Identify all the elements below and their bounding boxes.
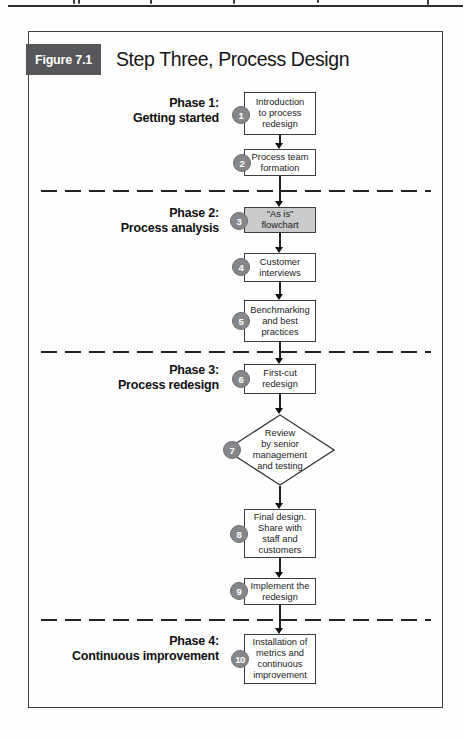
step-7-line: by senior	[225, 439, 335, 450]
step-4-line: interviews	[259, 268, 300, 279]
step-10-line: improvement	[253, 670, 307, 681]
step-8-line: Share with	[258, 523, 302, 534]
step-9-number-badge: 9	[230, 582, 248, 600]
step-2-box: Process team formation	[244, 149, 316, 176]
step-7-line: Review	[225, 428, 335, 439]
step-3-line: flowchart	[261, 220, 298, 231]
phase-divider-3-dashed-line	[41, 619, 431, 621]
phase-3-name: Phase 3:	[118, 363, 219, 378]
flow-arrow-7-8	[279, 486, 281, 503]
step-1-line: to process	[259, 108, 302, 119]
step-7-line: management	[225, 450, 335, 461]
text-fragment	[150, 0, 152, 4]
step-4-line: Customer	[260, 257, 300, 268]
phase-divider-2-dashed-line	[41, 351, 431, 353]
phase-4-label: Phase 4: Continuous improvement	[72, 634, 219, 664]
step-3-box: "As is" flowchart	[244, 207, 316, 233]
step-6-box: First-cut redesign	[244, 364, 316, 394]
text-fragment	[78, 0, 80, 4]
flow-arrow-5-6	[279, 342, 281, 358]
phase-2-subtitle: Process analysis	[121, 221, 219, 236]
step-5-box: Benchmarking and best practices	[244, 300, 316, 342]
step-9-line: Implement the	[251, 581, 310, 592]
step-8-line: Final design.	[254, 512, 307, 523]
phase-1-name: Phase 1:	[133, 96, 219, 111]
phase-2-name: Phase 2:	[121, 206, 219, 221]
phase-1-label: Phase 1: Getting started	[133, 96, 219, 126]
step-10-line: Installation of	[253, 637, 308, 648]
step-3-number-badge: 3	[230, 212, 248, 230]
step-4-box: Customer interviews	[244, 253, 316, 282]
step-8-line: customers	[259, 545, 302, 556]
flow-arrow-1-2	[279, 135, 281, 143]
flow-arrow-4-5	[279, 282, 281, 294]
step-8-box: Final design. Share with staff and custo…	[244, 509, 316, 558]
step-9-box: Implement the redesign	[244, 578, 316, 605]
flow-arrow-8-9	[279, 558, 281, 572]
figure-number-badge: Figure 7.1	[26, 44, 101, 75]
phase-1-subtitle: Getting started	[133, 111, 219, 126]
step-6-line: redesign	[262, 379, 298, 390]
figure-frame: Figure 7.1 Step Three, Process Design Ph…	[28, 31, 443, 708]
step-9-line: redesign	[262, 592, 298, 603]
step-5-line: Benchmarking	[250, 305, 309, 316]
step-7-label: Review by senior management and testing	[225, 428, 335, 472]
step-6-line: First-cut	[263, 368, 297, 379]
step-10-number-badge: 10	[231, 650, 249, 668]
step-5-line: practices	[261, 327, 298, 338]
step-4-number-badge: 4	[232, 258, 250, 276]
text-fragment	[233, 0, 235, 4]
step-1-line: redesign	[262, 119, 298, 130]
step-8-line: staff and	[262, 534, 298, 545]
step-1-number-badge: 1	[232, 106, 250, 124]
step-2-line: Process team	[252, 152, 309, 163]
flow-arrow-9-10	[279, 605, 281, 628]
step-5-number-badge: 5	[232, 312, 250, 330]
text-fragment	[73, 0, 75, 4]
text-fragment	[317, 0, 319, 3]
phase-2-label: Phase 2: Process analysis	[121, 206, 219, 236]
phase-3-label: Phase 3: Process redesign	[118, 363, 219, 393]
step-6-number-badge: 6	[232, 370, 250, 388]
phase-4-subtitle: Continuous improvement	[72, 649, 219, 664]
step-10-box: Installation of metrics and continuous i…	[244, 634, 316, 684]
flow-arrow-6-7	[279, 394, 281, 408]
step-7-line: and testing	[225, 461, 335, 472]
step-2-line: formation	[261, 163, 300, 174]
phase-4-name: Phase 4:	[72, 634, 219, 649]
step-5-line: and best	[262, 316, 298, 327]
flow-arrow-2-3	[279, 176, 281, 201]
step-7-number-badge: 7	[223, 441, 241, 459]
step-1-box: Introduction to process redesign	[244, 92, 316, 135]
step-1-line: Introduction	[256, 97, 305, 108]
step-3-line: "As is"	[267, 209, 294, 220]
step-2-number-badge: 2	[233, 154, 251, 172]
step-8-number-badge: 8	[230, 525, 248, 543]
step-10-line: metrics and	[256, 648, 304, 659]
page-header-rule	[8, 5, 463, 7]
phase-divider-1-dashed-line	[41, 190, 431, 192]
phase-3-subtitle: Process redesign	[118, 378, 219, 393]
flow-arrow-3-4	[279, 233, 281, 247]
figure-title: Step Three, Process Design	[116, 44, 349, 75]
step-10-line: continuous	[258, 659, 303, 670]
